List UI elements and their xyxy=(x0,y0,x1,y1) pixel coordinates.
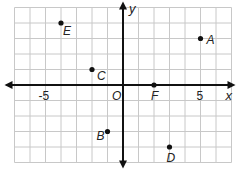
coordinate-plane: xyO-55 ABCDEF xyxy=(0,0,244,180)
point-d xyxy=(167,144,172,149)
point-label-d: D xyxy=(167,151,176,165)
point-b xyxy=(105,129,110,134)
point-label-c: C xyxy=(97,69,106,83)
y-axis-arrow-down-icon xyxy=(119,161,127,169)
point-c xyxy=(89,67,94,72)
point-label-b: B xyxy=(97,129,105,143)
point-label-f: F xyxy=(151,89,159,103)
tick-label: 5 xyxy=(197,89,204,103)
point-f xyxy=(151,82,156,87)
point-label-a: A xyxy=(206,33,215,47)
tick-label: -5 xyxy=(39,89,50,103)
point-label-e: E xyxy=(63,24,72,38)
y-axis-arrow-up-icon xyxy=(119,2,127,10)
x-axis-arrow-left-icon xyxy=(5,81,13,89)
x-axis-label: x xyxy=(225,88,233,103)
points: ABCDEF xyxy=(58,20,214,165)
origin-label: O xyxy=(112,89,121,103)
point-a xyxy=(198,36,203,41)
